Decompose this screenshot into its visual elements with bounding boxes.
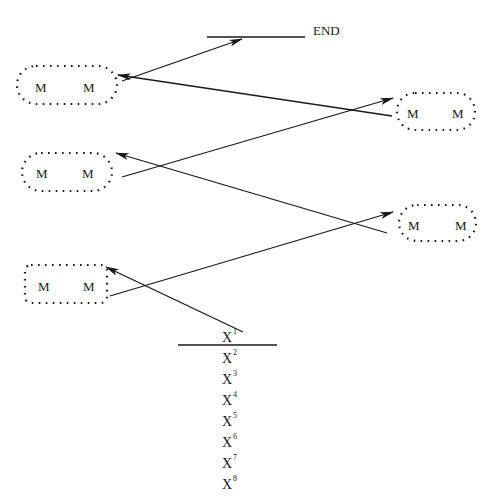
x-item-7: X 7: [222, 453, 237, 471]
svg-text:8: 8: [233, 474, 237, 483]
x-list: X 1 X 2 X 3 X 4 X 5 X 6 X 7 X 8: [178, 327, 277, 492]
svg-text:1: 1: [233, 327, 237, 336]
diagram-canvas: END M M M M M M M M M M X: [0, 0, 501, 500]
x-item-4: X 4: [222, 390, 237, 408]
end-label: END: [313, 23, 340, 38]
node-b: M M: [397, 93, 475, 130]
node-a-label-1: M: [35, 80, 47, 95]
edge-b-to-a: [118, 75, 392, 116]
node-b-label-1: M: [407, 106, 419, 121]
x-item-2: X 2: [222, 348, 237, 366]
end-terminal: END: [207, 23, 340, 38]
svg-text:6: 6: [233, 432, 237, 441]
svg-text:X: X: [222, 351, 232, 366]
x-item-3: X 3: [222, 369, 237, 387]
node-e-label-2: M: [83, 279, 95, 294]
svg-text:X: X: [222, 393, 232, 408]
svg-text:7: 7: [233, 453, 237, 462]
node-e: M M: [25, 265, 107, 303]
svg-text:X: X: [222, 414, 232, 429]
node-d-label-2: M: [455, 218, 467, 233]
node-d: M M: [399, 205, 476, 241]
edge-e-to-d: [110, 212, 393, 296]
node-a: M M: [17, 66, 117, 104]
edge-d-to-c: [116, 153, 387, 233]
node-b-label-2: M: [452, 106, 464, 121]
svg-text:2: 2: [233, 348, 237, 357]
svg-text:3: 3: [233, 369, 237, 378]
svg-text:X: X: [222, 330, 232, 345]
node-a-label-2: M: [83, 80, 95, 95]
x-item-8: X 8: [222, 474, 237, 492]
svg-text:X: X: [222, 477, 232, 492]
node-c-label-1: M: [36, 166, 48, 181]
node-c: M M: [22, 153, 112, 191]
svg-text:4: 4: [233, 390, 237, 399]
x-item-1: X 1: [222, 327, 237, 345]
svg-text:X: X: [222, 372, 232, 387]
svg-text:X: X: [222, 456, 232, 471]
node-d-label-1: M: [408, 218, 420, 233]
x-item-5: X 5: [222, 411, 237, 429]
x-item-6: X 6: [222, 432, 237, 450]
edge-a-to-end: [122, 39, 242, 81]
node-e-label-1: M: [38, 279, 50, 294]
svg-text:5: 5: [233, 411, 237, 420]
edges: [106, 39, 393, 332]
svg-text:X: X: [222, 435, 232, 450]
node-c-label-2: M: [82, 166, 94, 181]
